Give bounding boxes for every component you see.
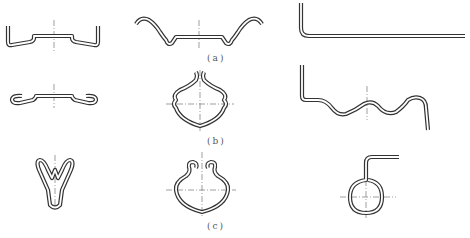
caption-b: (b) <box>207 136 226 146</box>
spring-clip-diagram <box>0 0 470 238</box>
flat-channel-clip <box>8 20 98 52</box>
wave-spring-bracket <box>302 65 428 130</box>
diamond-loop-clip <box>166 70 234 132</box>
v-shaped-clip <box>38 155 73 210</box>
curled-edge-clip <box>12 84 96 108</box>
curled-diamond-clip <box>166 152 236 218</box>
ring-hook <box>340 157 399 218</box>
l-shaped-rod <box>301 3 465 36</box>
caption-a: (a) <box>207 53 225 63</box>
wavy-channel-clip <box>136 19 262 48</box>
caption-c: (c) <box>207 221 225 231</box>
